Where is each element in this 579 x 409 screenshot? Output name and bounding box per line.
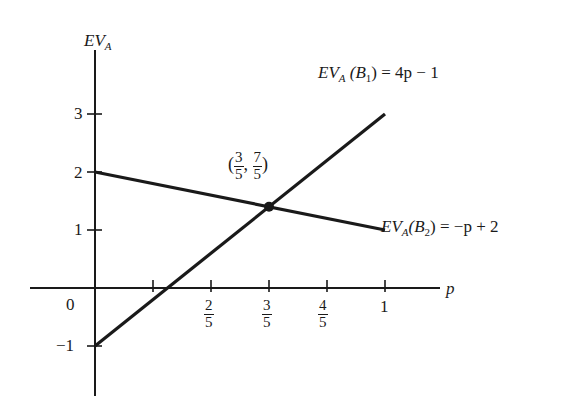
series-label-b2: EVA(B2) = −p + 2 <box>381 218 499 238</box>
series-label-b1: EVA (B1) = 4p − 1 <box>318 64 439 84</box>
origin-label: 0 <box>66 296 75 313</box>
x-tick-label-4-5: 45 <box>318 298 328 331</box>
y-tick-label-3: 3 <box>74 105 83 122</box>
x-axis-title: p <box>446 280 455 297</box>
intersection-label: (35, 75) <box>228 150 268 183</box>
chart-canvas <box>0 0 579 409</box>
intersection-point <box>264 202 274 212</box>
x-tick-label-2-5: 25 <box>204 298 214 331</box>
y-tick-label-2: 2 <box>74 164 83 181</box>
y-tick-label-1: 1 <box>74 221 83 238</box>
x-tick-label-1: 1 <box>380 298 389 315</box>
y-tick-label-minus-1: −1 <box>56 337 74 354</box>
y-axis-title: EVA <box>84 32 112 52</box>
x-tick-label-3-5: 35 <box>262 298 272 331</box>
